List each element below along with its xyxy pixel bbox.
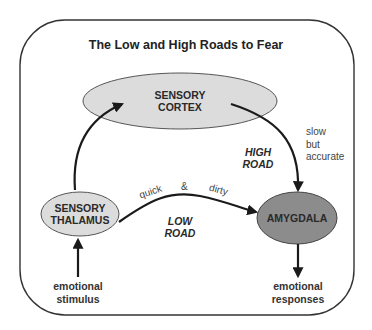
stimulus-line1: emotional xyxy=(38,280,118,293)
responses-line1: emotional xyxy=(253,280,343,293)
cortex-label: SENSORY CORTEX xyxy=(130,89,230,113)
emotional-stimulus-label: emotional stimulus xyxy=(38,280,118,306)
thalamus-label: SENSORY THALAMUS xyxy=(40,202,120,226)
note-but: but xyxy=(306,139,344,152)
responses-line2: responses xyxy=(253,293,343,306)
outer-frame xyxy=(20,20,354,315)
amygdala-label: AMYGDALA xyxy=(257,212,337,224)
low-road-line1: LOW xyxy=(160,215,200,227)
note-slow: slow xyxy=(306,126,344,139)
thalamus-label-line2: THALAMUS xyxy=(40,214,120,226)
low-road-note-and: & xyxy=(181,181,188,194)
high-road-label: HIGH ROAD xyxy=(238,146,278,170)
high-road-note: slow but accurate xyxy=(306,126,344,164)
cortex-label-line1: SENSORY xyxy=(130,89,230,101)
emotional-responses-label: emotional responses xyxy=(253,280,343,306)
note-accurate: accurate xyxy=(306,151,344,164)
cortex-label-line2: CORTEX xyxy=(130,101,230,113)
stimulus-line2: stimulus xyxy=(38,293,118,306)
high-road-line2: ROAD xyxy=(238,158,278,170)
low-road-label: LOW ROAD xyxy=(160,215,200,239)
low-road-line2: ROAD xyxy=(160,227,200,239)
thalamus-label-line1: SENSORY xyxy=(40,202,120,214)
diagram-title: The Low and High Roads to Fear xyxy=(0,38,372,52)
high-road-line1: HIGH xyxy=(238,146,278,158)
